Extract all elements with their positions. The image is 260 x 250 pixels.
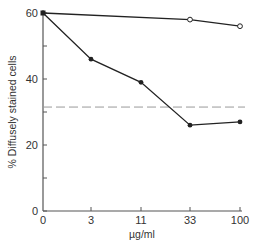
y-tick-label: 20	[26, 139, 38, 151]
y-tick-label: 40	[26, 73, 38, 85]
y-tick-label: 60	[26, 7, 38, 19]
data-point-filled	[89, 57, 94, 62]
x-tick-label: 11	[135, 214, 146, 226]
data-point-filled	[188, 123, 193, 128]
x-axis-title: µg/ml	[129, 228, 155, 240]
series-line-2	[43, 13, 240, 26]
data-point-open	[188, 17, 193, 22]
x-tick-label: 100	[231, 214, 249, 226]
axes	[43, 10, 242, 211]
y-ticks: 0204060	[26, 7, 47, 217]
x-tick-label: 3	[88, 214, 94, 226]
x-ticks: 031133100	[40, 207, 249, 226]
x-tick-label: 33	[184, 214, 196, 226]
y-tick-label: 0	[32, 205, 38, 217]
x-tick-label: 0	[40, 214, 46, 226]
series-line-1	[43, 13, 240, 125]
series-group	[41, 11, 243, 128]
data-point-filled	[139, 80, 144, 85]
data-point-filled	[238, 120, 243, 125]
data-point-open	[238, 24, 243, 29]
dose-response-chart: 0204060 031133100 % Diffusely stained ce…	[0, 0, 260, 250]
y-axis-title: % Diffusely stained cells	[6, 55, 18, 168]
